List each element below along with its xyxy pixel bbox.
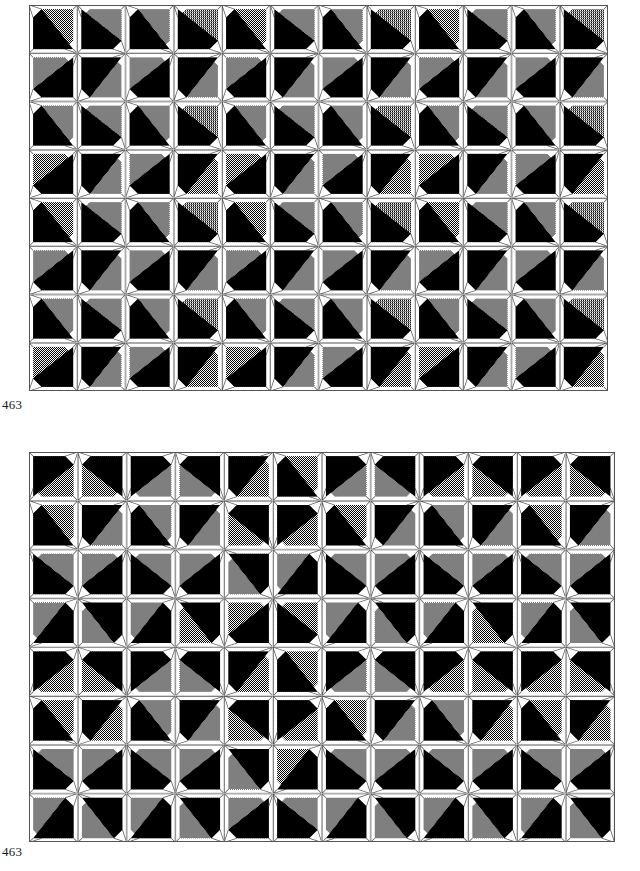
- figure-caption-top: 463: [2, 398, 22, 411]
- tiling-plate-bottom: [29, 452, 615, 842]
- tiling-canvas-top: [29, 5, 608, 391]
- tiling-canvas-bottom: [29, 452, 615, 842]
- tiling-plate-top: [29, 5, 608, 391]
- figure-caption-bottom: 463: [2, 845, 22, 858]
